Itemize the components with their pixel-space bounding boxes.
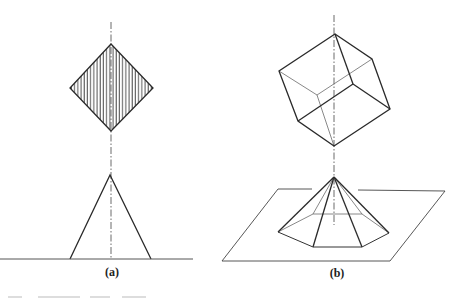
hatched-diamond xyxy=(70,44,153,131)
figure: (a) (b) xyxy=(0,0,458,298)
panel-b-label: (b) xyxy=(330,266,345,281)
triangle xyxy=(70,175,151,259)
wireframe-cube xyxy=(279,34,390,146)
panel-a-label: (a) xyxy=(105,265,119,280)
figure-canvas xyxy=(0,0,458,298)
panel-b xyxy=(222,15,445,261)
inclined-plane xyxy=(222,189,445,261)
panel-a xyxy=(0,22,193,259)
hexagonal-pyramid xyxy=(278,177,389,247)
